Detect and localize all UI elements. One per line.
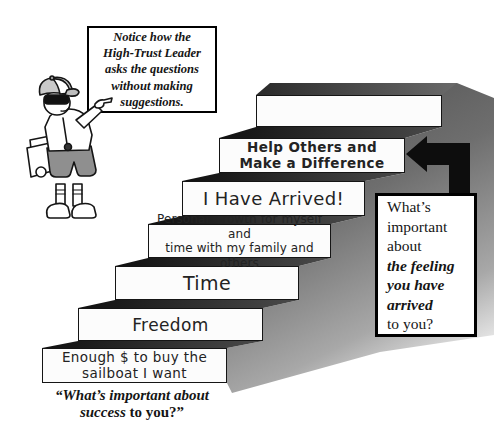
sunglasses-icon	[44, 95, 69, 104]
pointing-hand	[95, 98, 112, 108]
holding-hand	[36, 167, 46, 177]
cap-brim	[65, 89, 79, 96]
cartoon-leader	[27, 76, 112, 218]
leg	[73, 184, 82, 206]
whistle-icon	[65, 144, 72, 151]
shoe-icon	[72, 203, 96, 218]
cap-button	[50, 76, 54, 80]
cartoon-leader-figure	[0, 0, 500, 439]
shoe-icon	[47, 203, 70, 218]
staircase-diagram: Enough $ to buy the sailboat I want Free…	[0, 0, 500, 439]
